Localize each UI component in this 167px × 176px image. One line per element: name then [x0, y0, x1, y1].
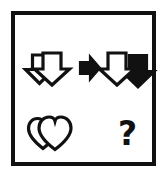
query-label: two overlapping outlined hearts	[28, 153, 29, 154]
double-down-arrow-outline-icon: two overlapping outlined down arrows	[28, 49, 83, 87]
double-heart-outline-icon: two overlapping outlined hearts	[28, 113, 83, 153]
down-arrow-outline-and-solid-icon: one outlined down arrow and one solid bl…	[100, 49, 155, 87]
question-mark-icon: ?	[100, 111, 155, 155]
result-label: one outlined down arrow and one solid bl…	[100, 87, 101, 88]
source-label: two overlapping outlined down arrows	[28, 87, 29, 88]
puzzle-frame: two overlapping outlined down arrows tra…	[11, 11, 156, 166]
question-mark-glyph: ?	[100, 111, 155, 155]
puzzle-figure: two overlapping outlined down arrows tra…	[0, 0, 167, 176]
